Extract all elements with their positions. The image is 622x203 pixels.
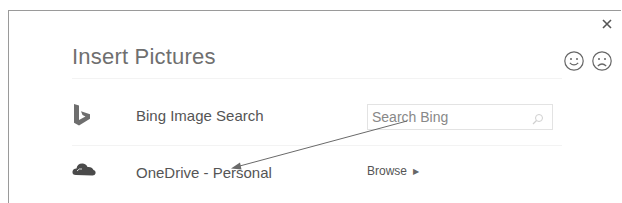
smile-icon bbox=[563, 50, 585, 72]
caret-right-icon: ▶ bbox=[413, 167, 419, 176]
send-frown-button[interactable] bbox=[591, 50, 613, 72]
dialog-title: Insert Pictures bbox=[72, 44, 216, 70]
onedrive-personal-label: OneDrive - Personal bbox=[136, 164, 272, 181]
close-icon bbox=[602, 19, 612, 29]
divider bbox=[72, 145, 562, 146]
bing-logo-icon bbox=[72, 103, 94, 127]
frown-icon bbox=[591, 50, 613, 72]
divider bbox=[72, 78, 562, 79]
search-bing-input[interactable] bbox=[372, 107, 522, 127]
search-icon[interactable] bbox=[532, 111, 544, 123]
send-smile-button[interactable] bbox=[563, 50, 585, 72]
browse-label: Browse bbox=[367, 164, 407, 178]
browse-button[interactable]: Browse▶ bbox=[367, 164, 419, 178]
bing-image-search-label: Bing Image Search bbox=[136, 107, 264, 124]
search-bing-box[interactable] bbox=[367, 104, 553, 130]
close-button[interactable] bbox=[600, 17, 614, 31]
onedrive-cloud-icon bbox=[72, 159, 94, 183]
